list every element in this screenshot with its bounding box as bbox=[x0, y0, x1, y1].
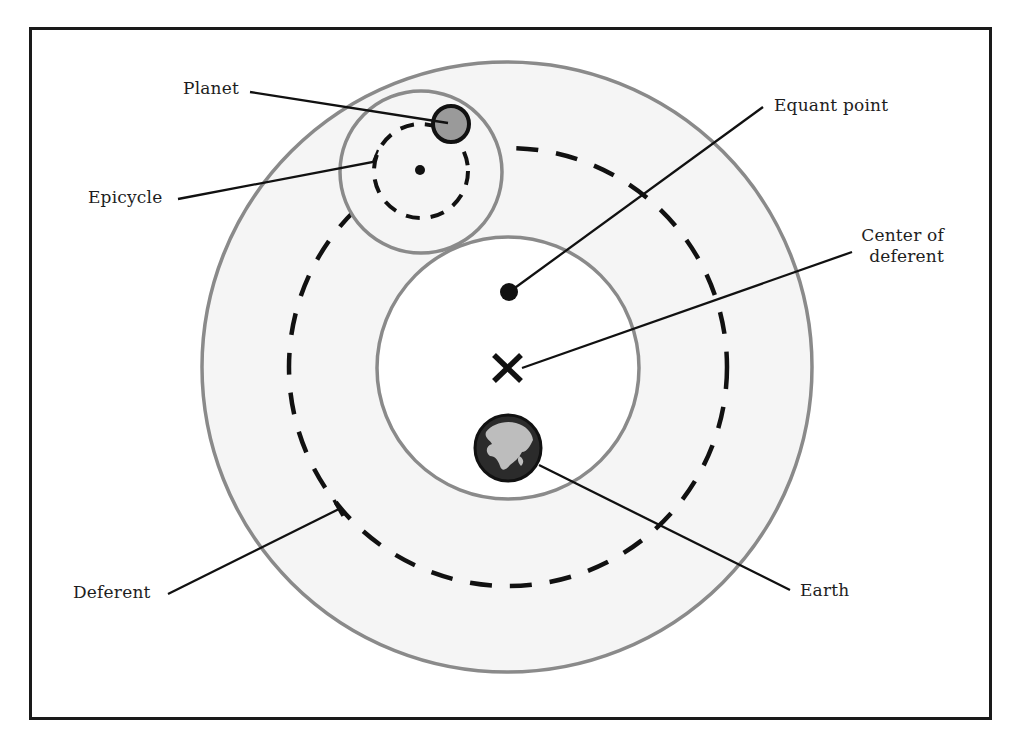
planet-icon bbox=[433, 106, 469, 142]
equant-point-dot bbox=[500, 283, 518, 301]
center-of-deferent-label-line1: Center of bbox=[846, 225, 944, 246]
epicycle-label: Epicycle bbox=[88, 187, 162, 208]
planet-label: Planet bbox=[183, 78, 239, 99]
ptolemaic-diagram: Planet Epicycle Deferent Equant point Ce… bbox=[0, 0, 1019, 738]
earth-icon bbox=[475, 415, 541, 481]
equant-point-label: Equant point bbox=[774, 95, 888, 116]
epicycle-center-dot bbox=[415, 165, 425, 175]
center-of-deferent-label-line2: deferent bbox=[846, 246, 944, 267]
deferent-label: Deferent bbox=[73, 582, 151, 603]
earth-label: Earth bbox=[800, 580, 849, 601]
